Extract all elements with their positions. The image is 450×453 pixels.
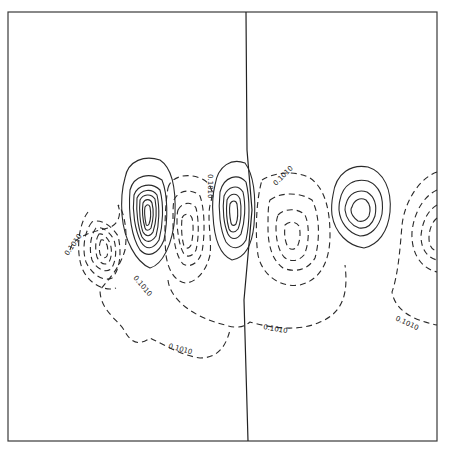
contour-label: 0.1010 — [263, 323, 289, 335]
negative-cell-right-center — [256, 173, 330, 286]
contour-figure: 0.1010 0.1010 0.1010 0.1010 0.1010 0.101… — [0, 0, 450, 453]
contour-label: 0.1010 — [131, 274, 153, 298]
contour-plot: 0.1010 0.1010 0.1010 0.1010 0.1010 0.101… — [0, 0, 450, 453]
negative-cell-left — [70, 205, 230, 358]
contour-label: 0.1010 — [394, 315, 420, 333]
negative-cell-middle — [165, 176, 346, 328]
positive-cell-c — [332, 166, 391, 248]
contour-label: 0.1010 — [206, 174, 214, 199]
contour-label: 0.1010 — [272, 164, 295, 187]
plot-frame — [8, 12, 437, 441]
contour-label: 0.1010 — [63, 232, 84, 257]
contour-label: 0.1010 — [167, 342, 193, 356]
positive-cell-a — [122, 158, 176, 268]
negative-cell-right-edge — [392, 172, 437, 325]
